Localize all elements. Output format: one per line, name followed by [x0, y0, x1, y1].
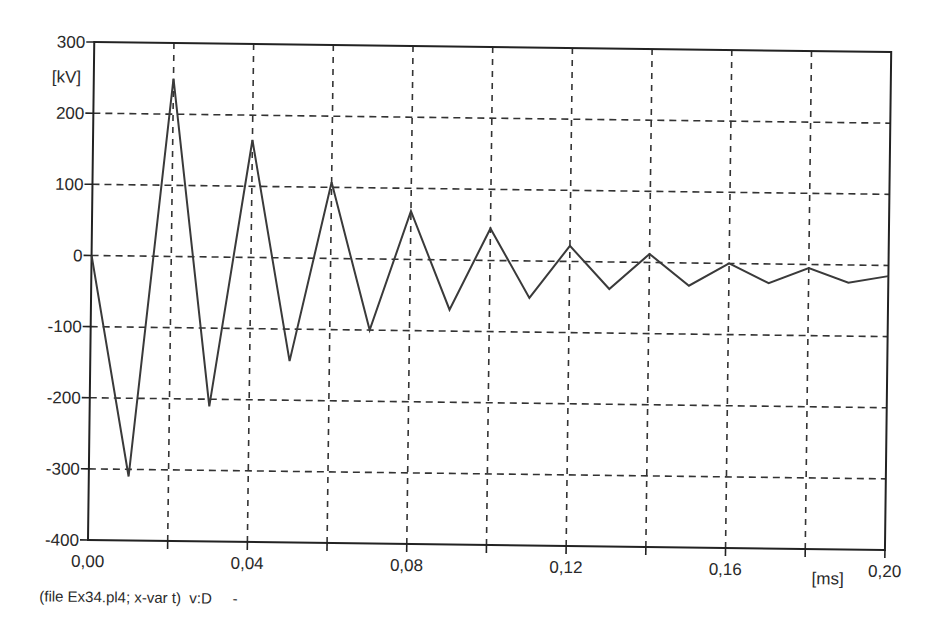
x-tick-label: 0,16: [709, 560, 742, 579]
plot-file-caption: (file Ex34.pl4; x-var t) v:D -: [39, 587, 238, 606]
v-gridline: [247, 44, 253, 542]
grid-lines: [88, 42, 891, 550]
y-tick-label: 0: [73, 246, 83, 265]
v-gridline: [566, 48, 572, 546]
y-axis-tick-labels: 3002001000-100-200-300-400: [45, 32, 86, 549]
y-tick-label: 300: [57, 33, 86, 52]
v-gridline: [407, 46, 413, 544]
y-axis-unit-label: [kV]: [52, 68, 82, 87]
v-gridline: [805, 51, 811, 549]
y-tick-label: -200: [47, 388, 81, 407]
y-tick-label: 200: [56, 104, 85, 123]
y-tick-label: -100: [48, 317, 82, 336]
v-gridline: [486, 47, 492, 545]
x-tick-label: 0,20: [868, 562, 901, 581]
x-axis-tick-labels: 0,000,040,080,120,160,20: [71, 552, 901, 581]
x-tick-label: 0,00: [71, 552, 104, 571]
series-v-d-line: [89, 78, 891, 486]
x-axis-unit-label: [ms]: [811, 569, 843, 588]
v-gridline: [646, 49, 652, 547]
v-gridline: [327, 45, 333, 543]
x-tick-label: 0,04: [230, 554, 263, 573]
voltage-chart: 3002001000-100-200-300-400 0,000,040,080…: [0, 0, 935, 632]
y-tick-label: 100: [55, 175, 84, 194]
y-tick-label: -300: [46, 459, 80, 478]
x-tick-label: 0,08: [390, 556, 423, 575]
y-tick-label: -400: [45, 530, 79, 549]
x-tick-label: 0,12: [549, 558, 582, 577]
axis-ticks: [80, 42, 891, 558]
v-gridline: [726, 50, 732, 548]
